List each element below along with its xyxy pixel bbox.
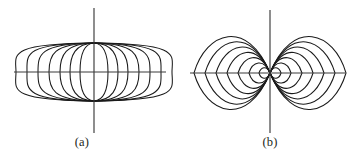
panel-a-field-diagram bbox=[0, 0, 180, 157]
panel-b-caption: (b) bbox=[180, 136, 359, 149]
panel-b: (b) bbox=[179, 0, 359, 157]
panel-a-caption: (a) bbox=[0, 136, 172, 149]
dipole-field-figure: (a) (b) bbox=[0, 0, 359, 157]
panel-a: (a) bbox=[0, 0, 180, 157]
panel-b-field-diagram bbox=[179, 0, 359, 157]
